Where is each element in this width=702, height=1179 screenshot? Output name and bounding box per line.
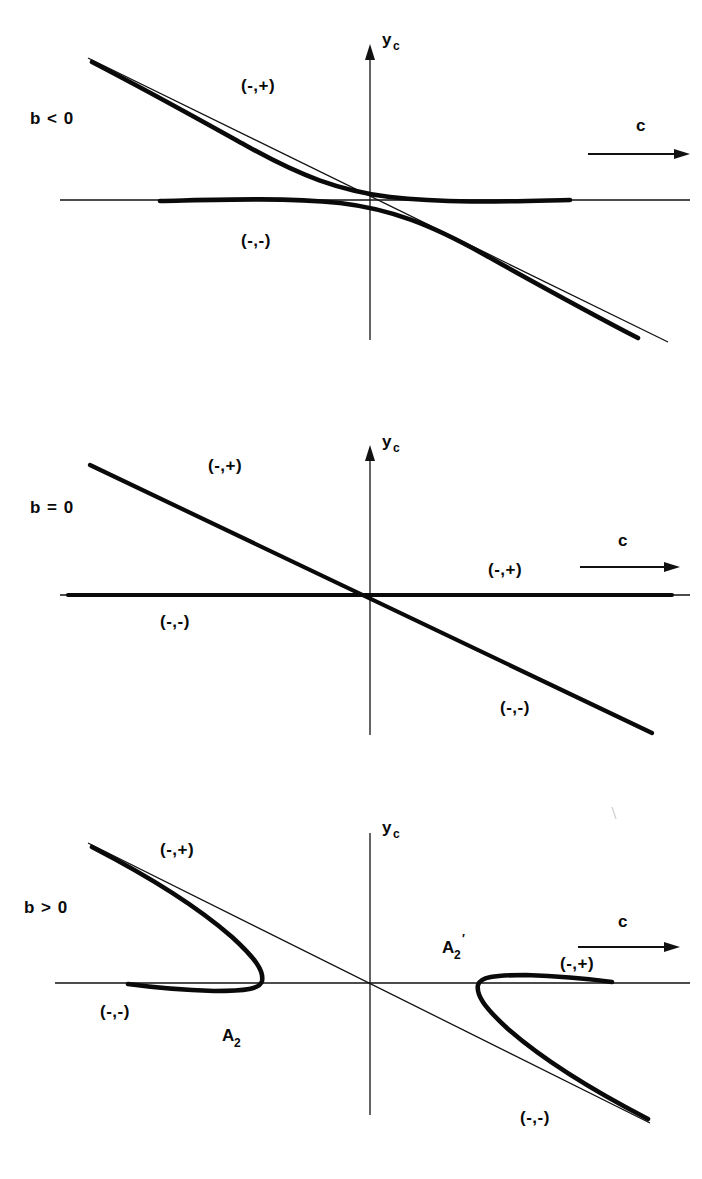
panel-b-negative-plot: b < 0 (-,+) (-,-) y c c (0, 0, 702, 400)
region-label-lower-left: (-,-) (160, 612, 190, 631)
y-axis-label: y (382, 30, 392, 49)
right-branch-A2-prime (478, 975, 648, 1119)
x-axis-arrowhead (664, 942, 680, 952)
condition-label: b > 0 (24, 898, 68, 917)
panel-b-negative: b < 0 (-,+) (-,-) y c c (0, 0, 702, 400)
y-axis-subscript: c (393, 441, 400, 455)
branch-label-A2-prime: A (442, 938, 454, 957)
vertical-axis-arrowhead (365, 44, 375, 60)
x-axis-arrowhead (664, 562, 680, 572)
branch-label-A2-prime-mark: ′ (462, 932, 465, 946)
region-label-upper-left: (-,+) (208, 456, 242, 475)
y-axis-label: y (382, 818, 392, 837)
branch-label-A2: A (222, 1026, 234, 1045)
descending-solution-line (90, 465, 652, 733)
region-label-lower-right: (-,-) (500, 698, 530, 717)
condition-label: b = 0 (30, 498, 74, 517)
panel-b-zero: b = 0 (-,+) (-,-) (-,+) (-,-) y c c (0, 395, 702, 785)
region-label-lower-right: (-,-) (520, 1108, 550, 1127)
x-axis-label: c (618, 912, 627, 931)
region-label-upper-left: (-,+) (160, 840, 194, 859)
vertical-axis-arrowhead (365, 445, 375, 461)
scan-artifact-mark (612, 807, 616, 819)
caption-strip (0, 1158, 702, 1179)
region-label-right-upper: (-,+) (560, 954, 594, 973)
branch-label-A2-prime-subscript: 2 (454, 948, 461, 962)
panel-b-positive-plot: b > 0 (-,+) (-,-) (-,+) (-,-) A 2 A 2 ′ … (0, 785, 702, 1165)
panel-b-positive: b > 0 (-,+) (-,-) (-,+) (-,-) A 2 A 2 ′ … (0, 785, 702, 1165)
y-axis-subscript: c (393, 39, 400, 53)
bifurcation-figure: b < 0 (-,+) (-,-) y c c b = 0 (0, 0, 702, 1179)
panel-b-zero-plot: b = 0 (-,+) (-,-) (-,+) (-,-) y c c (0, 395, 702, 785)
x-axis-arrowhead (674, 149, 690, 159)
region-label-right-upper: (-,+) (488, 560, 522, 579)
y-axis-label: y (382, 432, 392, 451)
upper-branch (92, 62, 570, 202)
region-label-lower-left: (-,-) (241, 231, 271, 250)
lower-branch (160, 199, 638, 338)
x-axis-label: c (636, 116, 645, 135)
left-branch-A2 (92, 847, 262, 991)
region-label-lower-left: (-,-) (100, 1002, 130, 1021)
y-axis-subscript: c (393, 827, 400, 841)
region-label-upper-left: (-,+) (241, 76, 275, 95)
branch-label-A2-subscript: 2 (234, 1036, 241, 1050)
condition-label: b < 0 (30, 109, 74, 128)
x-axis-label: c (618, 531, 627, 550)
